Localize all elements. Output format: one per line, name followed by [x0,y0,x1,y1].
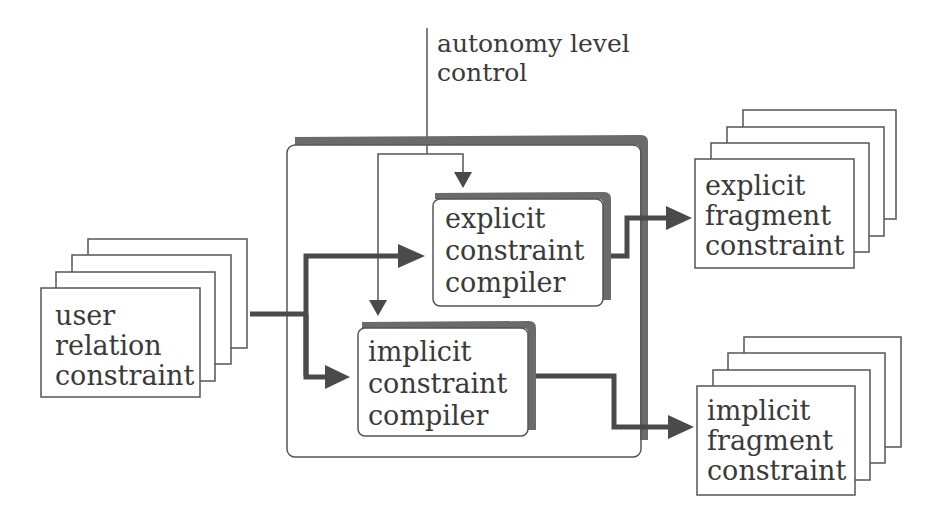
constraint-compiler-diagram: autonomy level control user relation con… [0,0,951,519]
input-label-line2: relation [55,330,162,361]
input-label-line1: user [55,300,115,331]
explicit-compiler-line1: explicit [445,203,546,234]
explicit-constraint-compiler[interactable]: explicit constraint compiler [433,192,611,306]
arrow-to-implicit-output-icon [668,415,694,439]
implicit-compiler-line2: constraint [368,368,508,399]
control-arrow-explicit-icon [454,172,472,188]
input-stack-user-relation-constraint: user relation constraint [41,239,247,397]
arrow-to-implicit-icon [325,365,350,389]
autonomy-control: autonomy level control [427,28,630,154]
explicit-output-line2: fragment [705,200,831,231]
implicit-output-line3: constraint [707,455,847,486]
explicit-output-line [611,218,668,256]
output-stack-implicit-fragment-constraint: implicit fragment constraint [697,337,901,495]
explicit-compiler-line2: constraint [445,235,585,266]
implicit-output-line1: implicit [707,395,811,426]
explicit-compiler-line3: compiler [445,267,566,298]
input-branch-implicit [306,314,326,377]
implicit-constraint-compiler[interactable]: implicit constraint compiler [358,321,536,436]
input-label-line3: constraint [55,360,195,391]
control-arrow-implicit-icon [369,300,387,316]
explicit-output-line1: explicit [705,170,806,201]
implicit-compiler-line1: implicit [368,336,472,367]
control-label-line2: control [437,58,527,87]
implicit-output-line2: fragment [707,425,833,456]
output-stack-explicit-fragment-constraint: explicit fragment constraint [695,110,896,268]
arrow-to-explicit-output-icon [666,206,692,230]
explicit-output-line3: constraint [705,230,845,261]
implicit-compiler-line3: compiler [368,400,489,431]
implicit-output-line [536,376,670,427]
control-label-line1: autonomy level [437,29,630,58]
arrow-to-explicit-icon [398,244,425,268]
